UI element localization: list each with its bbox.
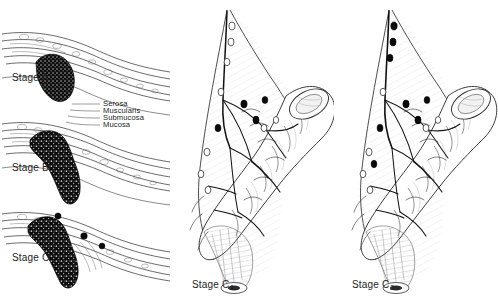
stage-c-wall — [2, 213, 170, 281]
stage-c2-label: Stage C2 — [352, 279, 394, 292]
stage-c2-svg — [330, 0, 498, 304]
stage-c1-label: Stage C1 — [192, 279, 234, 292]
stage-a-label: Stage A — [12, 72, 48, 83]
stage-c-label: Stage C — [12, 252, 50, 263]
layer-leader-lines — [66, 104, 100, 125]
stage-b-vessels — [10, 124, 156, 185]
stage-b-label: Stage B — [12, 162, 49, 173]
stage-c1-label-text: Stage C — [192, 279, 230, 290]
left-panel-cross-sections: Stage A Stage B Stage C Serosa Musculari… — [0, 0, 172, 304]
stage-c1-subscript: 1 — [230, 283, 235, 292]
stage-c1-svg — [168, 0, 334, 304]
stage-c2-subscript: 2 — [390, 283, 395, 292]
mid-panel-stage-c1: Stage C1 — [168, 0, 334, 304]
right-panel-stage-c2: Stage C2 — [330, 0, 498, 304]
stage-c2-label-text: Stage C — [352, 279, 390, 290]
layer-label-mucosa: Mucosa — [103, 120, 130, 129]
stage-a-vessels — [10, 34, 158, 93]
